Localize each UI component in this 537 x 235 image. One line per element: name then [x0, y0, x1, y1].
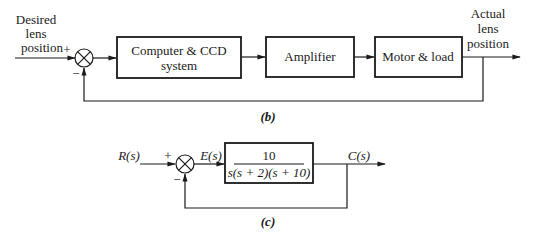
- diagram-b: Desired lens position + − Computer & CCD…: [15, 6, 520, 124]
- transfer-function-block: 10 s(s + 2)(s + 10): [225, 143, 313, 183]
- sum-plus-sign: +: [63, 42, 70, 57]
- tf-numerator: 10: [263, 148, 276, 163]
- sum-minus-sign-c: −: [173, 172, 180, 187]
- motor-load-label: Motor & load: [382, 49, 454, 64]
- tf-denominator: s(s + 2)(s + 10): [228, 165, 311, 180]
- input-label-line-1: Desired: [16, 12, 57, 27]
- motor-load-block: Motor & load: [375, 37, 462, 77]
- block-diagrams: Desired lens position + − Computer & CCD…: [0, 0, 537, 235]
- computer-block-label-2: system: [161, 58, 197, 73]
- summing-junction-c: [176, 155, 194, 173]
- diagram-c: R(s) + − E(s) 10 s(s + 2)(s + 10) C(s) (…: [117, 143, 385, 229]
- caption-c: (c): [261, 214, 275, 229]
- input-label-line-3: position: [21, 40, 63, 55]
- computer-ccd-block: Computer & CCD system: [117, 37, 241, 78]
- sum-plus-sign-c: +: [164, 148, 171, 163]
- output-label-line-2: lens: [478, 21, 499, 36]
- summing-junction: [75, 49, 93, 67]
- output-label-line-1: Actual: [471, 6, 506, 21]
- output-label-c: C(s): [348, 148, 370, 163]
- error-label: E(s): [199, 148, 222, 163]
- input-label-line-2: lens: [26, 26, 47, 41]
- amplifier-block: Amplifier: [266, 37, 354, 77]
- sum-minus-sign: −: [72, 66, 79, 81]
- amplifier-label: Amplifier: [284, 49, 336, 64]
- caption-b: (b): [260, 109, 275, 124]
- computer-block-label-1: Computer & CCD: [131, 43, 226, 58]
- output-label-line-3: position: [467, 36, 509, 51]
- input-label-r: R(s): [117, 148, 140, 163]
